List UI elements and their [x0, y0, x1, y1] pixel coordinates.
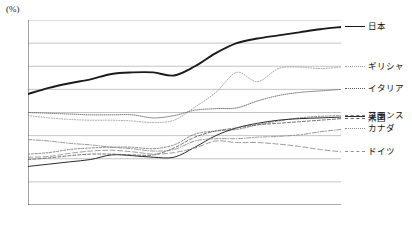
legend-swatch-カナダ: [345, 128, 365, 129]
plot-area: 0306090120150180210240200120022003200420…: [28, 20, 341, 205]
legend-swatch-ギリシャ: [345, 66, 365, 67]
series-line: [28, 129, 341, 151]
chart-container: (%) 030609012015018021024020012002200320…: [0, 0, 412, 228]
legend-item-ドイツ: ドイツ: [368, 147, 395, 156]
line-chart-svg: 0306090120150180210240200120022003200420…: [28, 20, 341, 205]
legend-swatch-日本: [345, 26, 365, 27]
legend-swatch-ドイツ: [345, 151, 365, 152]
legend-swatch-イタリア: [345, 88, 365, 89]
series-line: [28, 27, 341, 94]
series-line: [28, 89, 341, 118]
legend-item-イタリア: イタリア: [368, 84, 404, 93]
y-axis-unit-label: (%): [6, 4, 20, 14]
legend-swatch-米国: [345, 118, 365, 119]
legend-item-日本: 日本: [368, 22, 386, 31]
legend-item-米国: 米国: [368, 114, 386, 123]
legend-item-ギリシャ: ギリシャ: [368, 62, 404, 71]
series-line: [28, 116, 341, 155]
legend-item-カナダ: カナダ: [368, 124, 395, 133]
chart-legend: 日本ギリシャイタリアフランス英国米国カナダドイツ: [345, 0, 412, 228]
